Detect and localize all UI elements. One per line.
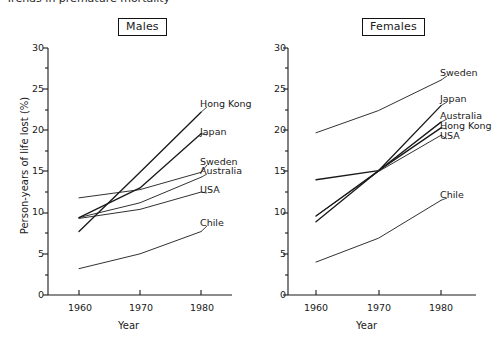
panel-males: Males Person-years of life lost (%) 30 2…	[0, 0, 250, 339]
series-females-usa	[316, 135, 441, 216]
series-label-leaders-females	[441, 76, 447, 200]
x-ticks-males	[79, 290, 201, 295]
series-females-japan	[316, 106, 441, 180]
series-females-hong-kong	[316, 128, 441, 222]
y-major-ticks-males	[43, 48, 48, 295]
x-ticks-females	[316, 290, 441, 295]
panel-females: Females 30 25 20 15 10 5 0 1960 1970 198…	[250, 0, 497, 339]
plot-area-females	[250, 0, 497, 339]
series-females-australia	[316, 122, 441, 216]
series-males-japan	[79, 134, 201, 218]
series-females-chile	[316, 200, 441, 262]
figure-two-panel-line-chart: Trends in premature mortality Males Pers…	[0, 0, 497, 339]
y-major-ticks-females	[283, 48, 288, 295]
series-males-hong-kong	[79, 112, 201, 231]
series-males-chile	[79, 232, 201, 269]
series-label-leaders-males	[201, 107, 207, 232]
plot-area-males	[0, 0, 250, 339]
